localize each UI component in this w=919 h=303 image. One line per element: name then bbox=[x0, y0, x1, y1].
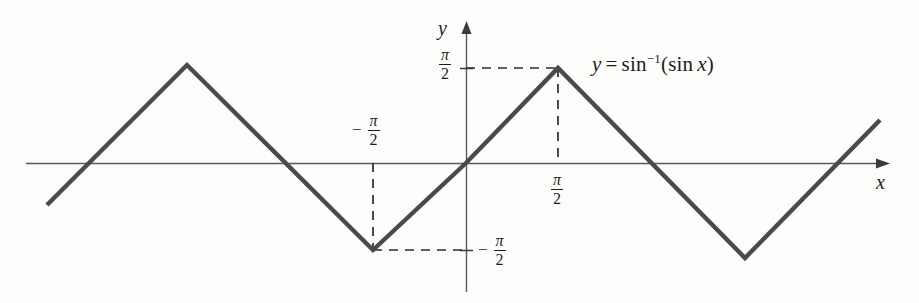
inverse-sine-composition-figure: y π 2 − π 2 − π 2 π 2 x bbox=[0, 0, 919, 303]
equation-exponent: −1 bbox=[647, 51, 661, 66]
fraction-pi-over-2: π 2 bbox=[368, 113, 380, 149]
function-curve bbox=[47, 65, 880, 258]
curve-group bbox=[47, 65, 880, 258]
fraction-numerator: π bbox=[368, 113, 380, 129]
x-tick-label-positive: π 2 bbox=[551, 172, 563, 208]
x-axis-label: x bbox=[876, 172, 885, 192]
x-axis bbox=[26, 159, 890, 169]
x-tick-label-negative: − π 2 bbox=[352, 113, 380, 149]
equation-variable: x bbox=[697, 52, 707, 76]
fraction-denominator: 2 bbox=[368, 132, 380, 148]
equation-function-name: sin bbox=[622, 52, 647, 76]
y-axis-label: y bbox=[438, 18, 447, 38]
y-tick-label-negative: − π 2 bbox=[478, 233, 506, 269]
fraction-numerator: π bbox=[551, 172, 563, 188]
fraction-pi-over-2: π 2 bbox=[551, 172, 563, 208]
plot-canvas bbox=[0, 0, 919, 303]
minus-sign: − bbox=[478, 241, 490, 258]
x-axis-arrowhead bbox=[876, 159, 890, 169]
fraction-denominator: 2 bbox=[494, 252, 506, 268]
equation-lhs: y bbox=[592, 52, 602, 76]
fraction-denominator: 2 bbox=[439, 66, 451, 82]
equation-inner-function-name: sin bbox=[668, 52, 693, 76]
y-tick-label-positive: π 2 bbox=[439, 47, 451, 83]
minus-sign: − bbox=[352, 121, 364, 138]
fraction-numerator: π bbox=[494, 233, 506, 249]
fraction-numerator: π bbox=[439, 47, 451, 63]
fraction-denominator: 2 bbox=[551, 191, 563, 207]
equation-close-paren: ) bbox=[707, 52, 714, 76]
equation-annotation: y=sin−1(sinx) bbox=[592, 52, 714, 75]
fraction-pi-over-2: π 2 bbox=[439, 47, 451, 83]
equation-equals-sign: = bbox=[606, 52, 618, 76]
fraction-pi-over-2: π 2 bbox=[494, 233, 506, 269]
y-axis-arrowhead bbox=[462, 21, 472, 34]
